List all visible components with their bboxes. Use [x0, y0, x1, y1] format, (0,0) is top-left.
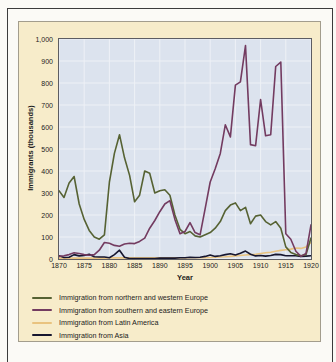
legend-item: Immigration from northern and western Eu… [32, 293, 208, 302]
legend-label: Immigration from Latin America [59, 318, 158, 327]
page-frame-right-line [332, 8, 333, 362]
legend-swatch [32, 297, 52, 299]
y-tick-label: 900 [41, 58, 53, 65]
y-axis-ticks: 01002003004005006007008009001,000 [19, 39, 55, 259]
figure-scan: { "chart_data": { "type": "line", "title… [0, 0, 336, 362]
y-tick-label: 300 [41, 190, 53, 197]
page-frame-left-line [7, 8, 8, 362]
y-tick-label: 600 [41, 124, 53, 131]
legend-swatch [32, 322, 52, 324]
x-tick-label: 1920 [303, 262, 319, 269]
y-tick-label: 800 [41, 80, 53, 87]
y-tick-label: 1,000 [35, 36, 53, 43]
legend-swatch [32, 334, 52, 336]
x-axis-title: Year [59, 273, 311, 282]
legend-label: Immigration from southern and eastern Eu… [59, 306, 208, 315]
x-tick-label: 1890 [152, 262, 168, 269]
y-tick-label: 700 [41, 102, 53, 109]
plot-area [58, 38, 312, 260]
legend: Immigration from northern and western Eu… [32, 293, 208, 343]
y-tick-label: 400 [41, 168, 53, 175]
x-tick-label: 1895 [177, 262, 193, 269]
legend-item: Immigration from Latin America [32, 318, 208, 327]
chart-panel: Immigrants (thousands) 01002003004005006… [18, 21, 321, 342]
legend-label: Immigration from Asia [59, 331, 129, 340]
legend-swatch [32, 309, 52, 311]
y-tick-label: 100 [41, 234, 53, 241]
chart-svg [59, 39, 311, 259]
legend-item: Immigration from southern and eastern Eu… [32, 306, 208, 315]
x-tick-label: 1880 [102, 262, 118, 269]
x-axis-ticks: 1870187518801885189018951900190519101915… [59, 262, 311, 272]
x-tick-label: 1905 [228, 262, 244, 269]
legend-label: Immigration from northern and western Eu… [59, 293, 208, 302]
x-tick-label: 1875 [76, 262, 92, 269]
x-tick-label: 1870 [51, 262, 67, 269]
x-tick-label: 1915 [278, 262, 294, 269]
y-tick-label: 200 [41, 212, 53, 219]
x-tick-label: 1900 [202, 262, 218, 269]
page-frame-top-line [7, 8, 333, 9]
x-tick-label: 1885 [127, 262, 143, 269]
x-tick-label: 1910 [253, 262, 269, 269]
legend-item: Immigration from Asia [32, 331, 208, 340]
y-tick-label: 500 [41, 146, 53, 153]
